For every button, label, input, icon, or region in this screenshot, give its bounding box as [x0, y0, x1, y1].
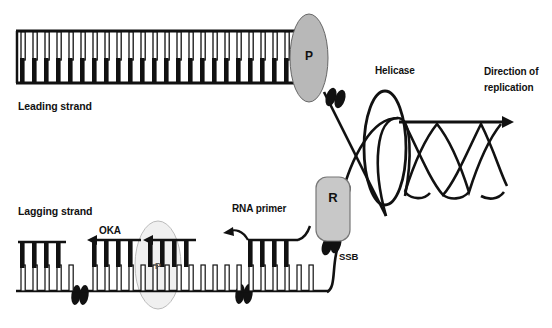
primase-letter: R — [323, 190, 343, 205]
direction-of-replication-arrow — [399, 116, 514, 128]
leading-strand-group — [16, 31, 302, 83]
lagging-strand-group — [16, 221, 329, 309]
label-lagging-strand: Lagging strand — [18, 205, 92, 217]
helicase-ellipse[interactable] — [364, 91, 406, 205]
label-ssb: SSB — [339, 251, 358, 262]
ssb-protein[interactable] — [323, 86, 347, 109]
okazaki-fragment — [18, 242, 66, 268]
rna-primer-fragment — [223, 226, 310, 267]
label-leading-strand: Leading strand — [18, 100, 92, 112]
okazaki-fragment — [87, 235, 141, 267]
rna-primer-arrow-icon — [223, 227, 234, 236]
lagging-template-hollow-bases — [21, 265, 313, 291]
label-rna-primer: RNA primer — [232, 203, 286, 214]
polymerase-lagging-letter: P — [149, 261, 167, 271]
primase-box[interactable] — [316, 177, 350, 241]
rna-primer-curve — [298, 226, 310, 240]
label-helicase: Helicase — [375, 65, 415, 76]
dna-replication-svg — [0, 0, 552, 328]
diagram-canvas: Leading strand Lagging strand OKA RNA pr… — [0, 0, 552, 328]
double-helix-group — [405, 124, 507, 199]
leading-top-hollow-bases — [21, 32, 289, 60]
polymerase-leading-letter: P — [300, 49, 318, 63]
label-direction-line2: replication — [484, 82, 533, 93]
label-direction-line1: Direction of — [484, 66, 538, 77]
label-okazaki: OKA — [99, 225, 121, 236]
leading-bottom-filled-bases — [20, 58, 289, 83]
